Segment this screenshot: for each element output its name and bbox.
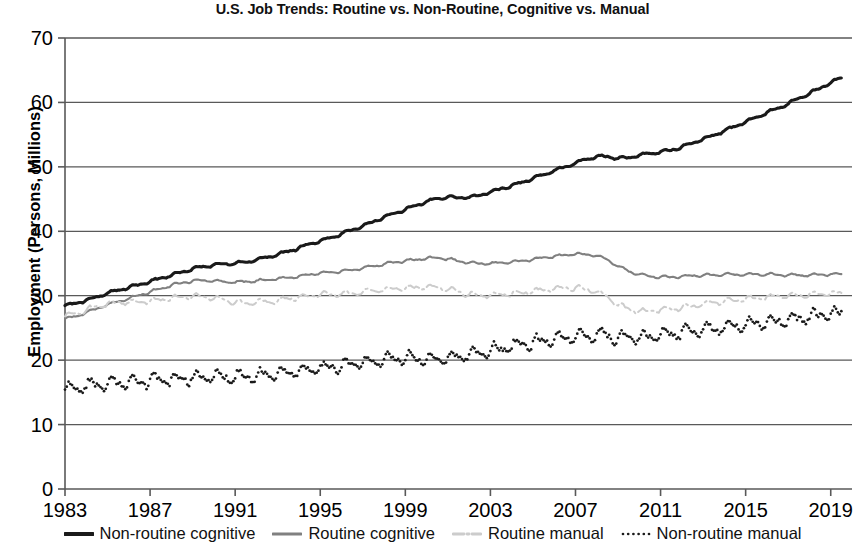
- data-point: [399, 360, 402, 363]
- data-point: [76, 387, 79, 390]
- data-point: [721, 330, 724, 333]
- y-tick-label: 40: [31, 220, 53, 242]
- data-point: [473, 347, 476, 350]
- data-point: [608, 333, 611, 336]
- data-point: [579, 328, 582, 331]
- data-point: [567, 337, 570, 340]
- data-point: [411, 354, 414, 357]
- data-point: [119, 381, 122, 384]
- y-tick-label: 0: [42, 478, 53, 500]
- data-point: [500, 346, 503, 349]
- series-line: [65, 78, 841, 306]
- data-point: [794, 314, 797, 317]
- data-point: [168, 385, 171, 388]
- data-point: [135, 378, 138, 381]
- dashdot-line-swatch: [452, 528, 482, 540]
- legend-label: Non-routine manual: [657, 524, 802, 543]
- data-point: [356, 365, 359, 368]
- data-point: [805, 323, 808, 326]
- data-point: [787, 318, 790, 321]
- data-point: [283, 368, 286, 371]
- data-point: [530, 348, 533, 351]
- data-point: [813, 308, 816, 311]
- data-point: [345, 358, 348, 361]
- data-point: [402, 362, 405, 365]
- data-point: [170, 376, 173, 379]
- data-point: [404, 359, 407, 362]
- data-point: [106, 383, 109, 386]
- data-point: [122, 385, 125, 388]
- data-point: [448, 353, 451, 356]
- data-point: [333, 367, 336, 370]
- data-point: [620, 329, 623, 332]
- data-point: [693, 330, 696, 333]
- data-point: [657, 337, 660, 340]
- legend-dot: [647, 532, 650, 535]
- data-point: [551, 343, 554, 346]
- data-point: [379, 365, 382, 368]
- data-point: [104, 387, 107, 390]
- data-point: [524, 344, 527, 347]
- data-point: [266, 372, 269, 375]
- data-point: [101, 387, 104, 390]
- data-point: [718, 333, 721, 336]
- legend-dot: [642, 532, 645, 535]
- legend-item[interactable]: Routine manual: [452, 524, 604, 543]
- data-point: [211, 379, 214, 382]
- data-point: [64, 388, 67, 391]
- data-point: [498, 349, 501, 352]
- data-point: [133, 375, 136, 378]
- x-tick-label: 2007: [553, 499, 598, 520]
- data-point: [103, 390, 106, 393]
- data-point: [496, 347, 499, 350]
- data-point: [452, 352, 455, 355]
- data-point: [822, 314, 825, 317]
- data-point: [392, 356, 395, 359]
- data-point: [67, 380, 70, 383]
- chart-legend: Non-routine cognitiveRoutine cognitiveRo…: [0, 524, 865, 543]
- data-point: [702, 328, 705, 331]
- y-tick-label: 30: [31, 285, 53, 307]
- data-point: [85, 386, 88, 389]
- data-point: [193, 373, 196, 376]
- data-point: [188, 385, 191, 388]
- data-point: [610, 338, 613, 341]
- data-point: [337, 373, 340, 376]
- data-point: [470, 348, 473, 351]
- data-point: [232, 380, 235, 383]
- solid-line-swatch: [64, 528, 94, 540]
- data-point: [145, 388, 148, 391]
- data-point: [617, 337, 620, 340]
- data-point: [638, 337, 641, 340]
- data-point: [317, 369, 320, 372]
- data-point: [386, 350, 389, 353]
- data-point: [455, 353, 458, 356]
- legend-item[interactable]: Non-routine cognitive: [64, 524, 256, 543]
- data-point: [216, 368, 219, 371]
- data-point: [501, 350, 504, 353]
- data-point: [485, 357, 488, 360]
- data-point: [223, 377, 226, 380]
- data-point: [576, 332, 579, 335]
- data-point: [158, 376, 161, 379]
- data-point: [239, 369, 242, 372]
- legend-item[interactable]: Non-routine manual: [621, 524, 802, 543]
- data-point: [253, 380, 256, 383]
- data-point: [631, 338, 634, 341]
- data-point: [828, 318, 831, 321]
- legend-item[interactable]: Routine cognitive: [272, 524, 435, 543]
- data-point: [360, 365, 363, 368]
- data-point: [634, 343, 637, 346]
- data-point: [381, 363, 384, 366]
- data-point: [581, 331, 584, 334]
- legend-dot: [637, 532, 640, 535]
- plot-area: 0102030405060701983198719911995199920032…: [0, 0, 865, 520]
- series-routine-manual: [65, 285, 841, 317]
- data-point: [803, 320, 806, 323]
- x-tick-label: 1987: [128, 499, 173, 520]
- x-tick-label: 2019: [808, 499, 853, 520]
- data-point: [695, 332, 698, 335]
- data-point: [372, 360, 375, 363]
- data-point: [831, 309, 834, 312]
- y-tick-label: 50: [31, 156, 53, 178]
